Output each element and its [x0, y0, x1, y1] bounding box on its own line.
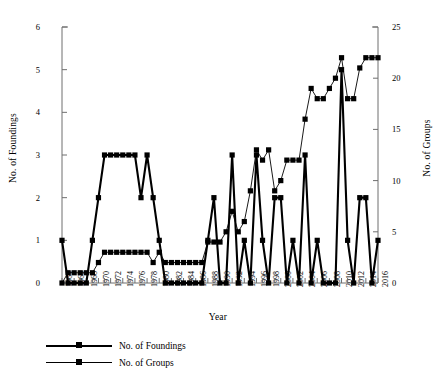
series-marker-groups [315, 96, 320, 101]
series-marker-groups [369, 55, 374, 60]
series-marker-foundings [369, 280, 374, 285]
series-marker-groups [363, 55, 368, 60]
legend-item-foundings: No. of Foundings [46, 337, 186, 354]
series-marker-groups [223, 229, 228, 234]
series-marker-groups [290, 158, 295, 163]
legend-label-foundings: No. of Foundings [119, 341, 186, 351]
series-marker-foundings [345, 238, 350, 243]
series-marker-foundings [248, 280, 253, 285]
series-marker-foundings [260, 238, 265, 243]
series-marker-foundings [284, 280, 289, 285]
series-marker-foundings [296, 280, 301, 285]
series-marker-groups [84, 270, 89, 275]
series-marker-foundings [302, 152, 307, 157]
series-marker-groups [375, 55, 380, 60]
series-marker-foundings [138, 195, 143, 200]
series-marker-groups [126, 250, 131, 255]
series-marker-groups [236, 229, 241, 234]
series-marker-foundings [230, 152, 235, 157]
series-marker-foundings [236, 280, 241, 285]
series-marker-foundings [90, 238, 95, 243]
series-marker-groups [102, 250, 107, 255]
legend-item-groups: No. of Groups [46, 354, 186, 371]
series-marker-groups [193, 260, 198, 265]
series-marker-foundings [181, 280, 186, 285]
series-marker-foundings [102, 152, 107, 157]
series-marker-groups [266, 147, 271, 152]
series-marker-groups [199, 260, 204, 265]
series-marker-foundings [266, 280, 271, 285]
series-marker-foundings [96, 195, 101, 200]
series-marker-foundings [126, 152, 131, 157]
series-marker-foundings [108, 152, 113, 157]
series-marker-groups [151, 260, 156, 265]
series-marker-groups [248, 188, 253, 193]
series-marker-groups [163, 260, 168, 265]
series-marker-groups [144, 250, 149, 255]
series-marker-groups [272, 188, 277, 193]
series-marker-groups [138, 250, 143, 255]
chart-figure: No. of Foundings No. of Groups Year 0123… [0, 0, 436, 380]
legend-swatch-foundings [46, 340, 112, 352]
series-marker-foundings [278, 195, 283, 200]
series-marker-foundings [199, 280, 204, 285]
series-marker-foundings [363, 195, 368, 200]
series-marker-groups [157, 250, 162, 255]
series-marker-groups [284, 158, 289, 163]
series-marker-foundings [144, 152, 149, 157]
series-marker-foundings [163, 280, 168, 285]
series-marker-foundings [120, 152, 125, 157]
series-marker-foundings [84, 280, 89, 285]
series-marker-groups [278, 178, 283, 183]
series-marker-groups [230, 209, 235, 214]
series-marker-foundings [309, 280, 314, 285]
series-marker-foundings [327, 280, 332, 285]
series-marker-groups [327, 86, 332, 91]
legend-label-groups: No. of Groups [119, 358, 174, 368]
series-marker-foundings [272, 195, 277, 200]
series-marker-foundings [72, 280, 77, 285]
series-marker-groups [96, 260, 101, 265]
series-marker-groups [302, 117, 307, 122]
series-marker-groups [169, 260, 174, 265]
series-marker-groups [333, 76, 338, 81]
series-marker-foundings [187, 280, 192, 285]
series-marker-groups [309, 86, 314, 91]
series-marker-groups [187, 260, 192, 265]
series-marker-foundings [315, 238, 320, 243]
series-marker-foundings [151, 195, 156, 200]
series-marker-groups [65, 270, 70, 275]
series-marker-foundings [333, 280, 338, 285]
series-line-groups [62, 58, 378, 283]
series-marker-groups [175, 260, 180, 265]
series-marker-foundings [169, 280, 174, 285]
chart-plot-area [0, 0, 436, 380]
series-marker-foundings [290, 238, 295, 243]
series-marker-foundings [217, 280, 222, 285]
series-marker-groups [254, 147, 259, 152]
series-marker-groups [72, 270, 77, 275]
legend-swatch-groups [46, 357, 112, 369]
series-marker-groups [211, 239, 216, 244]
series-marker-foundings [59, 238, 64, 243]
series-marker-groups [351, 96, 356, 101]
series-marker-foundings [157, 238, 162, 243]
series-marker-foundings [175, 280, 180, 285]
series-marker-foundings [132, 152, 137, 157]
series-marker-groups [205, 239, 210, 244]
series-marker-foundings [78, 280, 83, 285]
series-marker-groups [339, 55, 344, 60]
series-marker-groups [120, 250, 125, 255]
series-marker-foundings [211, 195, 216, 200]
series-marker-foundings [321, 280, 326, 285]
series-marker-groups [108, 250, 113, 255]
series-marker-groups [217, 239, 222, 244]
series-marker-foundings [351, 280, 356, 285]
chart-legend: No. of Foundings No. of Groups [46, 337, 186, 371]
series-marker-groups [321, 96, 326, 101]
series-marker-groups [260, 158, 265, 163]
series-marker-groups [181, 260, 186, 265]
series-marker-groups [345, 96, 350, 101]
series-marker-groups [114, 250, 119, 255]
series-marker-groups [90, 270, 95, 275]
